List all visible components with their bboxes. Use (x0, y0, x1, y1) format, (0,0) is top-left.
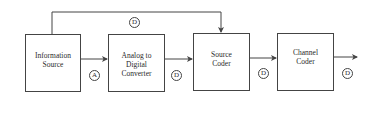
adc-block: Analog to Digital Converter (108, 34, 165, 92)
source-coder-block: Source Coder (193, 33, 250, 91)
signal-label-d-source-coder: D (258, 68, 269, 79)
channel-coder-label: Channel Coder (293, 48, 318, 66)
channel-coder-block: Channel Coder (277, 33, 334, 91)
signal-label-d-channel-coder: D (342, 68, 353, 79)
signal-label-a: A (89, 70, 100, 81)
information-source-block: Information Source (25, 34, 81, 92)
adc-label: Analog to Digital Converter (122, 51, 152, 78)
source-coder-label: Source Coder (211, 50, 232, 68)
signal-label-d-adc: D (171, 70, 182, 81)
information-source-label: Information Source (35, 51, 71, 69)
signal-label-d-bypass: D (129, 17, 140, 28)
